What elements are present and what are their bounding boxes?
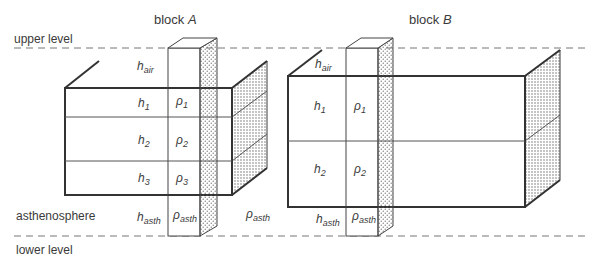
outside-rho-asth: ρasth: [245, 207, 270, 223]
block-a-h-asth: hasth: [137, 210, 161, 226]
upper-level-label: upper level: [14, 32, 73, 46]
block-b-h2: h2: [314, 162, 326, 178]
block-b-h-air: hair: [315, 57, 333, 73]
block-a-h2: h2: [138, 133, 150, 149]
block-b-title: block B: [409, 12, 452, 27]
block-b-h1: h1: [314, 99, 326, 115]
block-b-column: [346, 38, 393, 236]
block-a: [65, 38, 267, 236]
lower-level-label: lower level: [16, 243, 73, 257]
block-a-h-air: hair: [137, 59, 155, 75]
block-a-title: block A: [154, 12, 197, 27]
block-a-side-face: [232, 61, 267, 195]
isostasy-diagram: upper level asthenosphere lower level bl…: [0, 0, 591, 261]
block-a-h3: h3: [138, 171, 150, 187]
block-b-h-asth: hasth: [316, 212, 340, 228]
block-a-h1: h1: [138, 96, 150, 112]
asthenosphere-label: asthenosphere: [16, 209, 96, 223]
